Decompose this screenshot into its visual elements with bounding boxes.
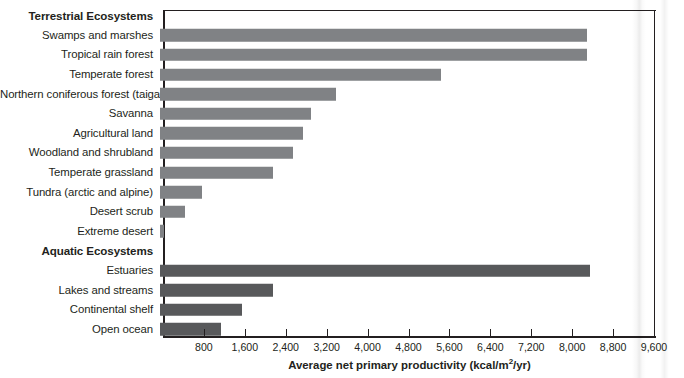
x-axis-title: Average net primary productivity (kcal/m… bbox=[163, 357, 656, 371]
x-tick-label: 5,600 bbox=[436, 341, 463, 353]
x-axis-ticks: 8001,6002,4003,2004,0004,8005,6006,4007,… bbox=[0, 0, 684, 378]
x-tick-label: 6,400 bbox=[477, 341, 504, 353]
x-tick-mark bbox=[613, 329, 614, 338]
x-tick-mark bbox=[409, 329, 410, 338]
x-tick-label: 2,400 bbox=[272, 341, 299, 353]
x-tick-mark bbox=[490, 329, 491, 338]
x-tick-label: 800 bbox=[195, 341, 213, 353]
x-tick-mark bbox=[654, 329, 655, 338]
x-tick-mark bbox=[449, 329, 450, 338]
x-tick-label: 3,200 bbox=[313, 341, 340, 353]
npp-bar-chart: Terrestrial EcosystemsSwamps and marshes… bbox=[0, 0, 684, 378]
x-tick-mark bbox=[327, 329, 328, 338]
x-tick-label: 8,800 bbox=[600, 341, 627, 353]
x-tick-mark bbox=[204, 329, 205, 338]
x-tick-mark bbox=[245, 329, 246, 338]
x-tick-label: 9,600 bbox=[641, 341, 668, 353]
x-tick-mark bbox=[368, 329, 369, 338]
x-tick-label: 8,000 bbox=[559, 341, 586, 353]
x-axis-title-text: Average net primary productivity (kcal/m… bbox=[288, 359, 531, 371]
x-tick-label: 1,600 bbox=[232, 341, 259, 353]
x-tick-mark bbox=[286, 329, 287, 338]
x-tick-mark bbox=[531, 329, 532, 338]
x-tick-label: 4,000 bbox=[354, 341, 381, 353]
x-tick-label: 7,200 bbox=[518, 341, 545, 353]
x-tick-mark bbox=[572, 329, 573, 338]
x-tick-label: 4,800 bbox=[395, 341, 422, 353]
